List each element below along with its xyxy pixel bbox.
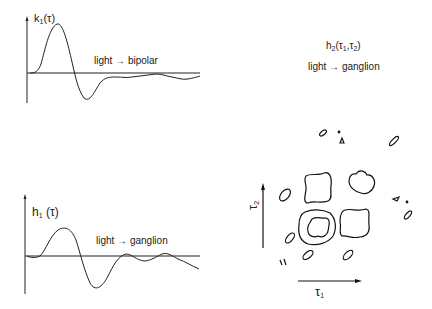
k1-ylabel: k1(τ) bbox=[34, 13, 55, 25]
island-top-dot bbox=[338, 131, 340, 133]
k1-y-axis-arrow-icon bbox=[26, 16, 29, 21]
panel-h2 bbox=[261, 129, 413, 283]
contour-upper-right bbox=[349, 171, 375, 194]
island-right-dot bbox=[406, 201, 408, 203]
h1-ylabel: h1 (τ) bbox=[32, 206, 59, 219]
island-corner-marks bbox=[280, 259, 286, 265]
island-right bbox=[403, 210, 412, 220]
island-top-right bbox=[388, 135, 399, 146]
h2-annotation: light → ganglion bbox=[308, 62, 380, 72]
k1-annotation: light → bipolar bbox=[94, 56, 158, 66]
island-lower-left bbox=[284, 231, 296, 244]
island-right-triangle bbox=[393, 197, 399, 201]
figure-canvas bbox=[0, 0, 432, 309]
contour-lower-right bbox=[340, 209, 369, 238]
h2-yaxis-label: τ2 bbox=[246, 201, 260, 210]
h2-title: h2(τ1,τ2) bbox=[326, 41, 361, 52]
h2-xaxis-label: τ1 bbox=[315, 285, 324, 299]
contour-upper-left bbox=[305, 173, 331, 203]
contour-lower-left-outer bbox=[299, 210, 336, 245]
h1-y-axis-arrow-icon bbox=[24, 194, 27, 199]
island-top-triangle bbox=[340, 138, 344, 143]
tau1-axis-arrow-icon bbox=[355, 279, 362, 283]
island-left bbox=[277, 187, 292, 203]
tau2-axis-arrow-icon bbox=[261, 183, 265, 190]
island-bottom-left bbox=[301, 249, 314, 261]
island-bottom-right bbox=[342, 249, 355, 262]
island-top-left bbox=[319, 129, 328, 137]
h1-annotation: light → ganglion bbox=[96, 236, 168, 246]
contour-lower-left-inner bbox=[307, 218, 329, 237]
